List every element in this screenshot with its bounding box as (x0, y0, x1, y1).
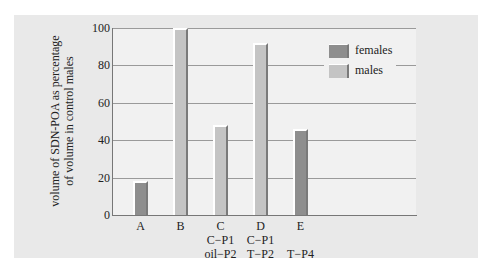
y-axis (112, 28, 113, 216)
y-tick-label: 60 (80, 97, 110, 109)
gridline (113, 28, 416, 29)
legend-label-males: males (355, 63, 383, 78)
legend-swatch-males (329, 64, 349, 78)
bar-c (213, 125, 228, 215)
y-axis-label-line-2: of volume in control males (62, 35, 76, 206)
bar-e (293, 129, 308, 215)
legend-label-females: females (355, 43, 392, 58)
legend: females males (324, 40, 396, 82)
y-tick-label: 20 (80, 172, 110, 184)
x-category-e: E T−P4 (276, 219, 326, 261)
y-tick-label: 80 (80, 59, 110, 71)
bar-d (253, 43, 268, 215)
legend-item-males: males (329, 63, 383, 78)
y-axis-label: volume of SDN-POA as percentage of volum… (48, 35, 76, 206)
legend-swatch-females (329, 44, 349, 58)
y-tick-label: 0 (80, 209, 110, 221)
x-axis (112, 215, 417, 216)
y-axis-label-line-1: volume of SDN-POA as percentage (48, 35, 62, 206)
bar-a (133, 181, 148, 215)
bar-b (173, 28, 188, 215)
legend-item-females: females (329, 43, 392, 58)
y-tick-label: 40 (80, 134, 110, 146)
y-tick-label: 100 (80, 22, 110, 34)
